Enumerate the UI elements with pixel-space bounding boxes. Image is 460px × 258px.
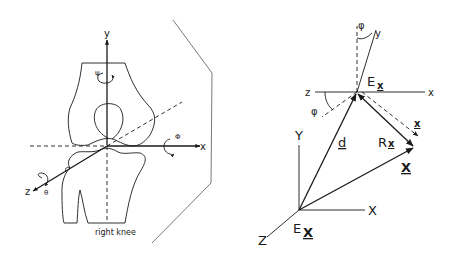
local-y-label: y [375,28,381,39]
phi-rotation-icon [164,139,174,155]
vector-d-label: d [338,135,346,150]
vector-Rx-label: R x [378,135,395,150]
angle-arc-left [325,92,333,110]
plane-outline [152,20,212,243]
theta-rotation-icon [38,173,48,186]
vector-X-label: X [401,160,411,175]
psi-rotation-icon [98,73,113,83]
vector-x-dashed [362,92,418,136]
vector-x-label: x [414,118,421,129]
angle-arc-top [357,33,372,39]
svg-text:x: x [388,138,395,149]
global-Y-label: Y [294,128,303,143]
z-axis-label: z [25,186,30,197]
svg-text:X: X [303,225,313,240]
z-axis [33,146,107,191]
svg-text:x: x [377,80,384,91]
theta-label: θ [44,189,48,197]
y-axis-label: y [104,28,110,39]
patella-outline [94,104,123,139]
local-phi-left-label: φ [311,106,318,117]
local-x-label: x [428,87,434,98]
global-Z-label: Z [258,233,267,248]
vector-d [299,94,356,210]
svg-text:E: E [367,74,375,89]
x-axis-label: x [200,141,206,152]
transform-diagram: φ y x z φ E x Y X Z E X d x R x X [258,20,434,248]
local-z-label: z [305,87,310,98]
knee-diagram: y x z ψ Φ θ right knee [25,20,212,243]
z-axis-dashed [107,102,182,146]
femur-outline [68,63,154,146]
phi-label: Φ [175,133,181,141]
global-X-label: X [368,203,377,218]
figure-canvas: y x z ψ Φ θ right knee φ y x z φ E x [0,0,460,258]
local-phi-top-label: φ [358,20,365,31]
rotated-z-dashed [322,92,357,117]
global-origin-label: E X [293,221,313,240]
psi-label: ψ [95,69,100,77]
svg-text:E: E [293,221,301,236]
vector-X [299,148,413,210]
svg-text:R: R [378,135,387,150]
tibia-outline [62,148,145,223]
knee-caption: right knee [95,228,136,237]
local-origin-label: E x [367,74,384,91]
